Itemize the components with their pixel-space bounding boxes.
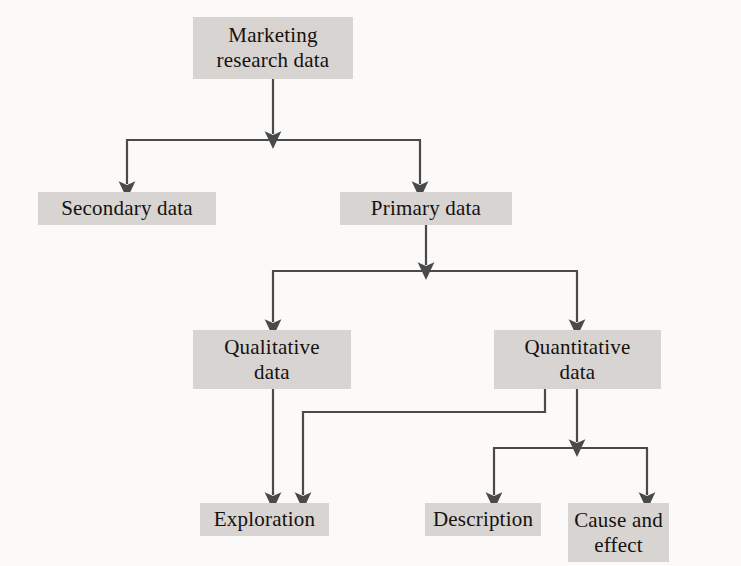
node-marketing-research-data[interactable]: Marketing research data bbox=[193, 17, 353, 79]
connector-layer bbox=[0, 0, 741, 566]
node-secondary-data[interactable]: Secondary data bbox=[38, 192, 216, 225]
node-exploration[interactable]: Exploration bbox=[200, 503, 329, 536]
node-description[interactable]: Description bbox=[425, 503, 541, 536]
node-qualitative-data[interactable]: Qualitative data bbox=[193, 330, 351, 389]
node-cause-and-effect[interactable]: Cause and effect bbox=[568, 503, 669, 562]
node-primary-data[interactable]: Primary data bbox=[340, 192, 512, 225]
edge-quantitative-exploration bbox=[303, 389, 545, 495]
node-quantitative-data[interactable]: Quantitative data bbox=[494, 330, 661, 389]
flowchart-canvas: Marketing research data Secondary data P… bbox=[0, 0, 741, 566]
